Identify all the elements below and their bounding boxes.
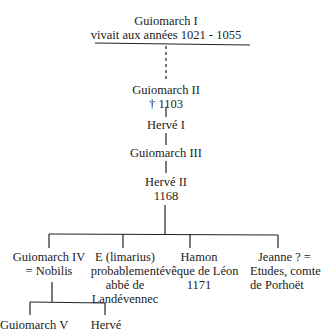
note: de Porhoët <box>250 278 336 292</box>
note: évêque de Léon <box>154 264 244 278</box>
node-herve: Hervé <box>84 318 128 332</box>
name: Hervé <box>84 318 128 332</box>
note: vivait aux années 1021 - 1055 <box>80 28 252 42</box>
note: Etudes, comte <box>250 264 336 278</box>
node-guiomarch-ii: Guiomarch II † 1103 <box>116 83 216 111</box>
name: Guiomarch I <box>80 14 252 28</box>
name: Jeanne ? = <box>250 250 336 264</box>
root-underline <box>95 43 250 45</box>
node-guiomarch-v: Guiomarch V <box>0 318 64 332</box>
note: probablement <box>88 264 162 278</box>
note: 1168 <box>116 189 216 203</box>
node-herve-ii: Hervé II 1168 <box>116 175 216 203</box>
note: † 1103 <box>116 97 216 111</box>
name: Guiomarch IV <box>4 250 94 264</box>
name: Guiomarch III <box>116 146 216 160</box>
node-jeanne: Jeanne ? = Etudes, comte de Porhoët <box>250 250 336 292</box>
node-guiomarch-iii: Guiomarch III <box>116 146 216 160</box>
children-bar <box>49 234 278 235</box>
note: abbé de <box>88 278 162 292</box>
name: Guiomarch II <box>116 83 216 97</box>
node-e-limarius: E (limarius) probablement abbé de Landév… <box>88 250 162 306</box>
note: = Nobilis <box>4 264 94 278</box>
name: Guiomarch V <box>0 318 64 332</box>
node-hamon: Hamon évêque de Léon 1171 <box>154 250 244 292</box>
name: Hamon <box>154 250 244 264</box>
name: Hervé I <box>116 118 216 132</box>
note: 1171 <box>154 278 244 292</box>
name: E (limarius) <box>88 250 162 264</box>
node-guiomarch-iv: Guiomarch IV = Nobilis <box>4 250 94 278</box>
node-herve-i: Hervé I <box>116 118 216 132</box>
name: Hervé II <box>116 175 216 189</box>
node-guiomarch-i: Guiomarch I vivait aux années 1021 - 105… <box>80 14 252 42</box>
note: Landévennec <box>88 292 162 306</box>
